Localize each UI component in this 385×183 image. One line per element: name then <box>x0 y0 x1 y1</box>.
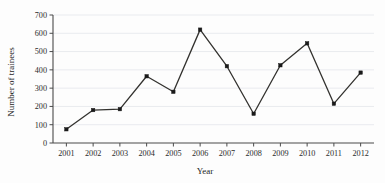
y-tick-label: 100 <box>35 121 47 130</box>
x-tick-label: 2011 <box>326 149 342 158</box>
x-tick-label: 2009 <box>272 149 288 158</box>
x-tick-label: 2010 <box>299 149 315 158</box>
data-point-marker <box>225 65 228 68</box>
x-axis: 2001200220032004200520062007200820092010… <box>53 143 374 158</box>
y-tick-label: 300 <box>35 84 47 93</box>
data-point-marker <box>91 108 94 111</box>
y-tick-label: 400 <box>35 66 47 75</box>
data-point-marker <box>279 64 282 67</box>
y-tick-label: 700 <box>35 11 47 20</box>
line-chart-figure: 0100200300400500600700 20012002200320042… <box>0 0 385 183</box>
y-axis-title: Number of trainees <box>6 47 16 117</box>
x-tick-label: 2012 <box>352 149 368 158</box>
y-tick-label: 0 <box>43 139 47 148</box>
x-tick-label: 2007 <box>219 149 235 158</box>
x-tick-label: 2002 <box>85 149 101 158</box>
data-point-marker <box>198 28 201 31</box>
x-tick-label: 2008 <box>245 149 261 158</box>
x-tick-label: 2006 <box>192 149 208 158</box>
y-tick-label: 200 <box>35 102 47 111</box>
data-point-marker <box>332 102 335 105</box>
x-tick-label: 2003 <box>112 149 128 158</box>
x-tick-label: 2001 <box>58 149 74 158</box>
y-axis: 0100200300400500600700 <box>35 11 53 148</box>
data-point-marker <box>145 75 148 78</box>
data-point-marker <box>172 90 175 93</box>
data-point-marker <box>359 71 362 74</box>
chart-plot-area: 0100200300400500600700 20012002200320042… <box>0 0 385 183</box>
gridlines <box>53 15 374 125</box>
x-axis-title: Year <box>197 166 214 176</box>
data-point-marker <box>118 107 121 110</box>
series-polyline <box>66 30 360 130</box>
y-tick-label: 600 <box>35 29 47 38</box>
x-tick-label: 2005 <box>165 149 181 158</box>
data-series-trainees <box>65 28 363 131</box>
data-point-marker <box>305 42 308 45</box>
y-tick-label: 500 <box>35 47 47 56</box>
data-point-marker <box>65 128 68 131</box>
x-tick-label: 2004 <box>138 149 154 158</box>
data-point-marker <box>252 112 255 115</box>
